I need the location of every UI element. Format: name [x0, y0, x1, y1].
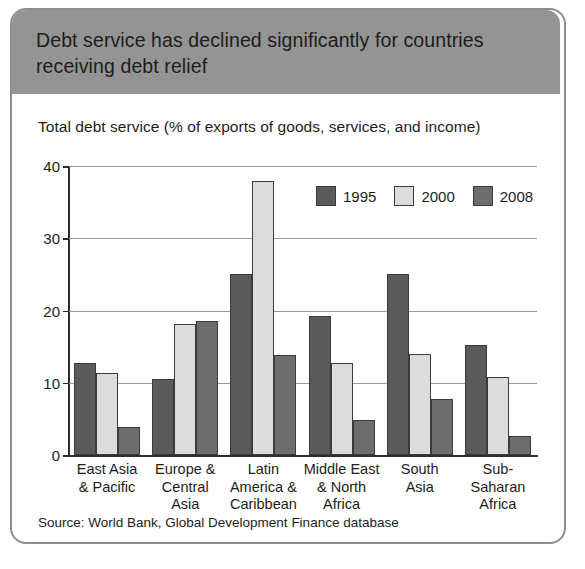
x-axis-category-label: South Asia [381, 461, 459, 496]
x-axis-line [68, 455, 538, 457]
bar [96, 373, 118, 455]
bar [118, 427, 140, 455]
y-axis-tick-mark [63, 383, 69, 385]
x-axis-category-label: Europe & Central Asia [146, 461, 224, 514]
y-axis-tick-label: 20 [30, 302, 60, 319]
figure-container: Debt service has declined significantly … [0, 0, 585, 569]
page-title: Debt service has declined significantly … [36, 27, 516, 79]
bar [274, 355, 296, 455]
plot-area [68, 166, 537, 455]
chart-subtitle: Total debt service (% of exports of good… [38, 118, 481, 136]
y-axis-tick-label: 10 [30, 374, 60, 391]
bar [230, 274, 252, 455]
y-axis-tick-mark [63, 455, 69, 457]
x-axis-category-label: Sub- Saharan Africa [459, 461, 537, 514]
y-axis-tick-label: 30 [30, 230, 60, 247]
y-axis-tick-label: 0 [30, 447, 60, 464]
bar [409, 354, 431, 455]
y-axis-tick-label: 40 [30, 158, 60, 175]
bar [487, 377, 509, 455]
bar [74, 363, 96, 455]
source-note: Source: World Bank, Global Development F… [38, 515, 399, 530]
bar [252, 181, 274, 455]
gridline [68, 166, 537, 167]
y-axis-tick-mark [63, 238, 69, 240]
bar [387, 274, 409, 455]
bar [353, 420, 375, 455]
bar [509, 436, 531, 455]
y-axis-tick-mark [63, 311, 69, 313]
gridline [68, 238, 537, 239]
bar [431, 399, 453, 455]
bar [174, 324, 196, 455]
gridline [68, 311, 537, 312]
x-axis-category-label: East Asia & Pacific [68, 461, 146, 496]
y-axis-ticks: 010203040 [28, 166, 60, 455]
bar [309, 316, 331, 455]
bar [331, 363, 353, 455]
x-axis-category-label: Middle East & North Africa [303, 461, 381, 514]
bar [152, 379, 174, 455]
y-axis-tick-mark [63, 166, 69, 168]
bar [196, 321, 218, 455]
x-axis-category-label: Latin America & Caribbean [224, 461, 302, 514]
bar [465, 345, 487, 455]
